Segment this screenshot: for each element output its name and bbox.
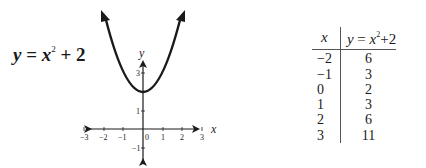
table-row: −1 3 xyxy=(312,67,396,82)
y-axis-label: y xyxy=(138,46,145,60)
x-tick-label: −2 xyxy=(99,133,108,142)
cell-y: 2 xyxy=(340,82,396,97)
cell-y: 6 xyxy=(340,50,396,67)
y-tick-label: 1 xyxy=(136,107,140,116)
table-row: 2 6 xyxy=(312,112,396,127)
x-tick-label: 1 xyxy=(161,133,165,142)
y-tick-label: 3 xyxy=(136,69,140,78)
cell-x: 3 xyxy=(312,128,340,143)
cell-x: −1 xyxy=(312,67,340,82)
cell-y: 3 xyxy=(340,67,396,82)
cell-x: 1 xyxy=(312,97,340,112)
cell-y: 11 xyxy=(340,128,396,143)
cell-x: −2 xyxy=(312,50,340,67)
curve-arrow-left-icon xyxy=(101,10,110,22)
table-row: −2 6 xyxy=(312,50,396,67)
parabola-graph: −3 −2 −1 0 1 2 3 3 1 −1 x y xyxy=(0,0,260,168)
cell-y: 3 xyxy=(340,97,396,112)
curve-arrow-right-icon xyxy=(176,10,185,22)
x-tick-label: 2 xyxy=(180,133,184,142)
x-tick-label: −1 xyxy=(118,133,127,142)
table-row: 0 2 xyxy=(312,82,396,97)
table-row: 1 3 xyxy=(312,97,396,112)
values-table: x y = x2+2 −2 6 −1 3 0 2 1 3 2 6 3 11 xyxy=(312,27,396,143)
x-axis-label: x xyxy=(210,122,217,136)
cell-y: 6 xyxy=(340,112,396,127)
cell-x: 0 xyxy=(312,82,340,97)
x-tick-label: 3 xyxy=(200,133,204,142)
table-row: 3 11 xyxy=(312,128,396,143)
cell-x: 2 xyxy=(312,112,340,127)
y-tick-label: −1 xyxy=(132,144,141,153)
x-tick-label: −3 xyxy=(80,133,89,142)
x-tick-label: 0 xyxy=(145,133,149,142)
header-y: y = x2+2 xyxy=(340,27,396,50)
header-x: x xyxy=(312,27,340,50)
